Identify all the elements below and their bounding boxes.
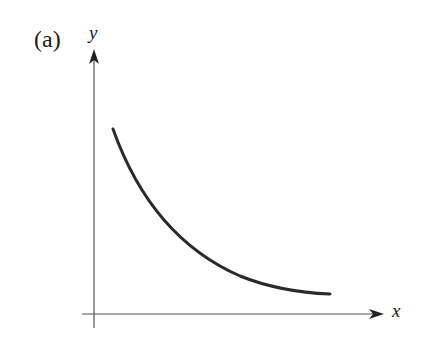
y-axis-label: y [89, 22, 97, 44]
panel-label: (a) [34, 26, 61, 53]
x-axis-label: x [392, 300, 400, 322]
figure-a: (a) y x [0, 0, 441, 348]
plot-area [0, 0, 441, 348]
curve [113, 129, 330, 294]
